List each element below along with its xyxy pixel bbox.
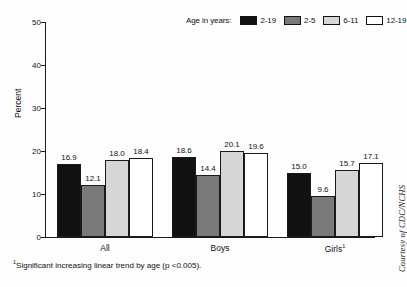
bar-group-boys: 18.614.420.119.6 bbox=[172, 22, 268, 237]
y-tick-label: 10 bbox=[32, 190, 41, 199]
bar-girls-2-19[interactable]: 15.0 bbox=[287, 22, 311, 237]
y-tick-label: 40 bbox=[32, 61, 41, 70]
y-axis-title: Percent bbox=[13, 89, 23, 118]
bar-value-label: 19.6 bbox=[248, 142, 264, 151]
bar-all-12-19[interactable]: 18.4 bbox=[129, 22, 153, 237]
bar-rect[interactable] bbox=[81, 185, 105, 237]
bar-rect[interactable] bbox=[172, 157, 196, 237]
bar-all-6-11[interactable]: 18.0 bbox=[105, 22, 129, 237]
plot-area: 01020304050 16.912.118.018.418.614.420.1… bbox=[45, 22, 375, 237]
bar-all-2-19[interactable]: 16.9 bbox=[57, 22, 81, 237]
category-label-boys: Boys bbox=[211, 243, 230, 253]
bar-rect[interactable] bbox=[287, 173, 311, 238]
y-axis-line bbox=[45, 22, 46, 237]
bar-rect[interactable] bbox=[311, 196, 335, 237]
bar-group-all: 16.912.118.018.4 bbox=[57, 22, 153, 237]
bar-rect[interactable] bbox=[359, 163, 383, 237]
bar-rect[interactable] bbox=[196, 175, 220, 237]
y-tick-mark bbox=[41, 65, 45, 66]
bar-value-label: 20.1 bbox=[224, 140, 240, 149]
y-tick-mark bbox=[41, 22, 45, 23]
bar-value-label: 15.7 bbox=[339, 159, 355, 168]
bar-value-label: 18.0 bbox=[109, 149, 125, 158]
bar-value-label: 18.6 bbox=[176, 146, 192, 155]
bar-rect[interactable] bbox=[129, 158, 153, 237]
y-tick-label: 30 bbox=[32, 104, 41, 113]
y-tick-label: 50 bbox=[32, 18, 41, 27]
bar-girls-2-5[interactable]: 9.6 bbox=[311, 22, 335, 237]
bar-rect[interactable] bbox=[57, 164, 81, 237]
bar-boys-2-5[interactable]: 14.4 bbox=[196, 22, 220, 237]
category-footnote-marker: 1 bbox=[342, 243, 345, 249]
bar-rect[interactable] bbox=[220, 151, 244, 237]
bar-value-label: 12.1 bbox=[85, 174, 101, 183]
credit-text: Courtesy of CDC/NCHS bbox=[397, 185, 407, 272]
chart-figure: Age in years: 2-19 2-5 6-11 12-19 Percen… bbox=[0, 0, 407, 287]
y-tick-label: 20 bbox=[32, 147, 41, 156]
bar-rect[interactable] bbox=[105, 160, 129, 237]
y-tick-mark bbox=[41, 108, 45, 109]
bar-value-label: 14.4 bbox=[200, 164, 216, 173]
bar-boys-6-11[interactable]: 20.1 bbox=[220, 22, 244, 237]
bar-all-2-5[interactable]: 12.1 bbox=[81, 22, 105, 237]
category-label-all: All bbox=[100, 243, 109, 253]
bar-value-label: 18.4 bbox=[133, 147, 149, 156]
x-axis-line bbox=[45, 237, 375, 238]
y-tick-mark bbox=[41, 194, 45, 195]
y-tick-mark bbox=[41, 237, 45, 238]
bar-boys-12-19[interactable]: 19.6 bbox=[244, 22, 268, 237]
bar-value-label: 9.6 bbox=[317, 185, 328, 194]
legend-label-12-19: 12-19 bbox=[386, 16, 406, 25]
y-tick-mark bbox=[41, 151, 45, 152]
footnote-text: Significant increasing linear trend by a… bbox=[16, 261, 201, 270]
bar-rect[interactable] bbox=[335, 170, 359, 238]
bar-boys-2-19[interactable]: 18.6 bbox=[172, 22, 196, 237]
bar-girls-12-19[interactable]: 17.1 bbox=[359, 22, 383, 237]
bar-rect[interactable] bbox=[244, 153, 268, 237]
bar-value-label: 17.1 bbox=[363, 152, 379, 161]
bar-value-label: 16.9 bbox=[61, 153, 77, 162]
bar-group-girls: 15.09.615.717.1 bbox=[287, 22, 383, 237]
category-label-girls: Girls1 bbox=[325, 243, 346, 254]
footnote: 1Significant increasing linear trend by … bbox=[13, 259, 201, 270]
y-tick-label: 0 bbox=[37, 233, 41, 242]
bar-value-label: 15.0 bbox=[291, 162, 307, 171]
bar-girls-6-11[interactable]: 15.7 bbox=[335, 22, 359, 237]
